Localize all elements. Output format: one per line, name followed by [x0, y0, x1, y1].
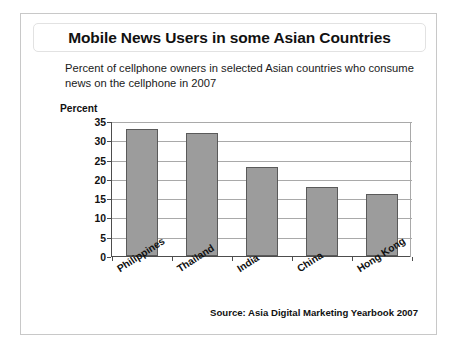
- y-axis-tick-label: 30: [49, 136, 111, 147]
- y-axis-tick-label: 35: [49, 117, 111, 128]
- source-note: Source: Asia Digital Marketing Yearbook …: [210, 307, 418, 318]
- slide-title-box: Mobile News Users in some Asian Countrie…: [33, 23, 426, 52]
- y-axis-tick-label: 25: [49, 155, 111, 166]
- x-axis-tick-mark: [232, 257, 233, 261]
- y-axis-tick-label: 20: [49, 174, 111, 185]
- y-axis-tick-mark: [107, 238, 111, 239]
- bar-chart: 05101520253035PhilippinesThailandIndiaCh…: [49, 115, 419, 265]
- bar-china[interactable]: [306, 187, 337, 256]
- x-axis-tick-mark: [172, 257, 173, 261]
- page-title: Mobile News Users in some Asian Countrie…: [68, 29, 391, 47]
- bar-thailand[interactable]: [186, 133, 217, 256]
- bar-india[interactable]: [246, 167, 277, 256]
- y-axis-tick-mark: [107, 161, 111, 162]
- y-axis-tick-mark: [107, 141, 111, 142]
- slide-frame: Mobile News Users in some Asian Countrie…: [20, 13, 437, 335]
- y-axis-tick-mark: [107, 122, 111, 123]
- y-axis-tick-mark: [107, 180, 111, 181]
- y-axis-tick-mark: [107, 257, 111, 258]
- x-axis-tick-mark: [352, 257, 353, 261]
- chart-subtitle: Percent of cellphone owners in selected …: [65, 61, 415, 90]
- gridline: [112, 122, 412, 123]
- y-axis-tick-label: 5: [49, 232, 111, 243]
- y-axis-tick-label: 10: [49, 213, 111, 224]
- y-axis-title: Percent: [60, 103, 97, 114]
- bar-philippines[interactable]: [126, 129, 157, 256]
- y-axis-tick-label: 15: [49, 194, 111, 205]
- y-axis-tick-mark: [107, 199, 111, 200]
- x-axis-tick-mark: [412, 257, 413, 261]
- x-axis-tick-mark: [292, 257, 293, 261]
- y-axis-tick-label: 0: [49, 252, 111, 263]
- x-axis-tick-mark: [112, 257, 113, 261]
- y-axis-tick-mark: [107, 218, 111, 219]
